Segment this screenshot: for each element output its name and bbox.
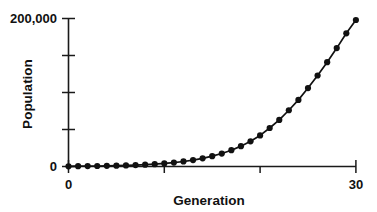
plot-background: [0, 0, 377, 212]
data-point: [190, 157, 196, 163]
data-point: [324, 59, 330, 65]
chart-figure: 200,000 0 0 30 Population Generation: [0, 0, 377, 212]
data-point: [200, 155, 206, 161]
y-axis-top-label: 200,000: [10, 11, 57, 26]
data-point: [75, 163, 81, 169]
y-axis-zero-label: 0: [50, 159, 57, 174]
population-growth-line-chart: 200,000 0 0 30 Population Generation: [0, 0, 377, 212]
data-point: [267, 125, 273, 131]
data-point: [85, 163, 91, 169]
data-point: [314, 72, 320, 78]
data-point: [65, 163, 71, 169]
data-point: [132, 162, 138, 168]
data-point: [161, 160, 167, 166]
data-point: [152, 161, 158, 167]
data-point: [209, 153, 215, 159]
data-point: [171, 159, 177, 165]
x-axis-max-label: 30: [349, 177, 363, 192]
data-point: [113, 163, 119, 169]
data-point: [94, 163, 100, 169]
data-point: [123, 162, 129, 168]
data-point: [286, 107, 292, 113]
data-point: [142, 162, 148, 168]
data-point: [334, 45, 340, 51]
data-point: [104, 163, 110, 169]
data-point: [247, 138, 253, 144]
data-point: [353, 17, 359, 23]
data-point: [238, 143, 244, 149]
x-axis-title: Generation: [173, 193, 244, 208]
data-point: [276, 117, 282, 123]
data-point: [295, 97, 301, 103]
data-point: [228, 147, 234, 153]
x-axis-zero-label: 0: [65, 177, 72, 192]
data-point: [257, 132, 263, 138]
data-point: [219, 150, 225, 156]
data-point: [180, 158, 186, 164]
data-point: [305, 85, 311, 91]
y-axis-title: Population: [20, 59, 35, 129]
data-point: [343, 30, 349, 36]
